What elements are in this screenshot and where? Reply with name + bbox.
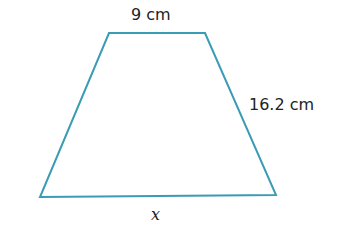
trapezoid-figure (0, 0, 347, 231)
trapezoid-outline (40, 33, 276, 197)
diagram-canvas: 9 cm 16.2 cm x (0, 0, 347, 231)
right-side-label: 16.2 cm (249, 95, 314, 114)
top-side-label: 9 cm (131, 5, 171, 24)
bottom-side-label: x (151, 205, 160, 224)
